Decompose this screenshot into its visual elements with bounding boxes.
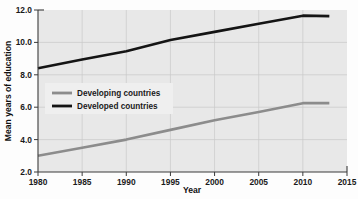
x-tick-label: 1985 bbox=[73, 177, 92, 187]
y-tick-label: 12.0 bbox=[16, 5, 33, 15]
x-tick-label: 2005 bbox=[249, 177, 268, 187]
legend-label-1: Developing countries bbox=[77, 89, 161, 98]
x-tick-label: 1990 bbox=[117, 177, 136, 187]
y-tick-label: 2.0 bbox=[20, 167, 32, 177]
y-tick-label: 10.0 bbox=[16, 37, 33, 47]
x-tick-label: 1980 bbox=[29, 177, 48, 187]
y-axis-title: Mean years of education bbox=[3, 41, 13, 141]
x-tick-label: 2000 bbox=[205, 177, 224, 187]
x-axis-title: Year bbox=[183, 185, 202, 195]
legend: Developing countriesDeveloped countries bbox=[45, 83, 173, 114]
x-tick-label: 2010 bbox=[294, 177, 313, 187]
line-chart: 19801985199019952000200520102015 2.04.06… bbox=[0, 0, 358, 199]
y-tick-label: 6.0 bbox=[20, 102, 32, 112]
x-tick-label: 2015 bbox=[338, 177, 357, 187]
legend-label-2: Developed countries bbox=[77, 102, 158, 111]
y-tick-label: 8.0 bbox=[20, 70, 32, 80]
chart-page: 19801985199019952000200520102015 2.04.06… bbox=[0, 0, 358, 199]
x-tick-label: 1995 bbox=[161, 177, 180, 187]
y-tick-label: 4.0 bbox=[20, 135, 32, 145]
